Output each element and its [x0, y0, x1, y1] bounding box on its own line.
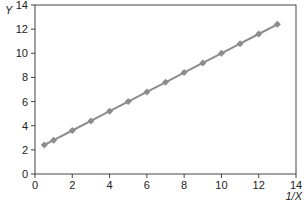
diamond-marker	[237, 40, 244, 47]
y-axis: 02468101214	[16, 0, 35, 180]
diamond-marker	[50, 137, 57, 144]
y-tick-label: 2	[22, 144, 28, 156]
y-tick-label: 6	[22, 96, 28, 108]
diamond-marker	[87, 117, 94, 124]
y-axis-title: Y	[5, 4, 13, 16]
diamond-marker	[218, 50, 225, 57]
diamond-marker	[181, 69, 188, 76]
plot-frame	[35, 5, 296, 174]
x-tick-label: 4	[107, 179, 113, 191]
chart: 02468101214 02468101214 Y 1/X	[0, 0, 307, 213]
diamond-marker	[162, 79, 169, 86]
x-tick-label: 12	[253, 179, 265, 191]
y-tick-label: 10	[16, 47, 28, 59]
diamond-marker	[106, 108, 113, 115]
x-axis: 02468101214	[32, 174, 302, 191]
y-tick-label: 8	[22, 71, 28, 83]
y-tick-label: 0	[22, 168, 28, 180]
diamond-marker	[125, 98, 132, 105]
series-line	[44, 24, 277, 145]
data-series	[41, 21, 281, 149]
y-tick-label: 14	[16, 0, 28, 11]
x-tick-label: 2	[69, 179, 75, 191]
plot-border	[35, 5, 296, 174]
x-tick-label: 6	[144, 179, 150, 191]
y-tick-label: 12	[16, 23, 28, 35]
diamond-marker	[41, 142, 48, 149]
x-tick-label: 10	[215, 179, 227, 191]
diamond-marker	[69, 127, 76, 134]
diamond-marker	[274, 21, 281, 28]
diamond-marker	[199, 59, 206, 66]
x-tick-label: 8	[181, 179, 187, 191]
x-axis-title: 1/X	[285, 190, 302, 202]
x-tick-label: 0	[32, 179, 38, 191]
y-tick-label: 4	[22, 120, 28, 132]
diamond-marker	[143, 88, 150, 95]
diamond-marker	[255, 30, 262, 37]
